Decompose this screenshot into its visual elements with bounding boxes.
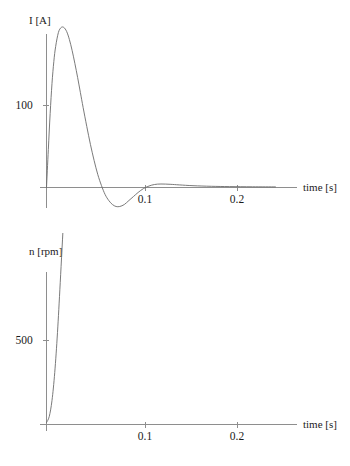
speed-response-curve — [47, 233, 278, 423]
y-tick-label-100-current: 100 — [15, 99, 33, 111]
current-response-curve — [47, 27, 276, 207]
chart-current: I [A] 100 0.1 0.2 time [s] — [0, 0, 350, 233]
x-tick-label-0-1-current: 0.1 — [138, 193, 153, 205]
x-tick-label-0-1-speed: 0.1 — [138, 430, 153, 442]
y-axis-label-speed: n [rpm] — [29, 245, 62, 257]
chart-current-canvas: I [A] 100 0.1 0.2 time [s] — [0, 0, 350, 233]
figure-page: I [A] 100 0.1 0.2 time [s] n [rpm] — [0, 0, 350, 466]
y-tick-label-500-speed: 500 — [15, 334, 33, 346]
y-axis-label-current: I [A] — [29, 14, 51, 26]
chart-speed-canvas: n [rpm] 500 0.1 0.2 time [s] — [0, 233, 350, 466]
x-axis-label-current: time [s] — [303, 181, 337, 193]
x-axis-label-speed: time [s] — [303, 418, 337, 430]
chart-speed: n [rpm] 500 0.1 0.2 time [s] — [0, 233, 350, 466]
x-tick-label-0-2-current: 0.2 — [230, 193, 245, 205]
x-tick-label-0-2-speed: 0.2 — [230, 430, 245, 442]
